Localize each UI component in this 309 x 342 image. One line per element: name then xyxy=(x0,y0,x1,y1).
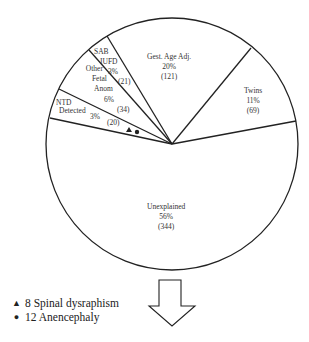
slice-name: Unexplained xyxy=(147,202,185,212)
down-arrow-icon xyxy=(149,280,195,326)
label-ntd-count: (20) xyxy=(107,118,120,128)
slice-count: (69) xyxy=(244,106,262,116)
legend-text: 8 Spinal dysraphism xyxy=(25,296,119,310)
label-ntd-detected: NTD Detected xyxy=(56,98,86,116)
label-gest-age-adj: Gest. Age Adj. 20% (121) xyxy=(147,52,191,82)
slice-percent: 6% xyxy=(104,95,114,105)
legend: ▲ 8 Spinal dysraphism ● 12 Anencephaly xyxy=(12,296,119,324)
circle-icon: ● xyxy=(12,310,21,324)
label-other-pct: 6% xyxy=(104,95,114,105)
slice-name: Gest. Age Adj. xyxy=(147,52,191,62)
legend-text: 12 Anencephaly xyxy=(25,310,99,324)
slice-percent: 11% xyxy=(244,96,262,106)
slice-name: Anom xyxy=(76,84,113,94)
slice-name: SAB xyxy=(94,47,131,57)
slice-name: Detected xyxy=(56,106,86,116)
slice-count: (344) xyxy=(147,222,185,232)
slice-name: Twins xyxy=(244,86,262,96)
circle-marker-icon xyxy=(135,130,139,134)
label-other-count: (34) xyxy=(117,105,130,115)
slice-count: (121) xyxy=(147,72,191,82)
slice-name: Other xyxy=(76,64,113,74)
label-twins: Twins 11% (69) xyxy=(244,86,262,116)
slice-percent: 56% xyxy=(147,212,185,222)
triangle-icon: ▲ xyxy=(12,296,21,310)
legend-item-anencephaly: ● 12 Anencephaly xyxy=(12,310,119,324)
slice-count: (20) xyxy=(107,118,120,128)
label-other-fetal-anom: Other Fetal Anom xyxy=(76,64,113,94)
slice-percent: 20% xyxy=(147,62,191,72)
label-unexplained: Unexplained 56% (344) xyxy=(147,202,185,232)
slice-count: (34) xyxy=(117,105,130,115)
legend-item-spinal-dysraphism: ▲ 8 Spinal dysraphism xyxy=(12,296,119,310)
slice-percent: 3% xyxy=(90,112,100,122)
label-ntd-pct: 3% xyxy=(90,112,100,122)
slice-name: Fetal xyxy=(76,74,113,84)
